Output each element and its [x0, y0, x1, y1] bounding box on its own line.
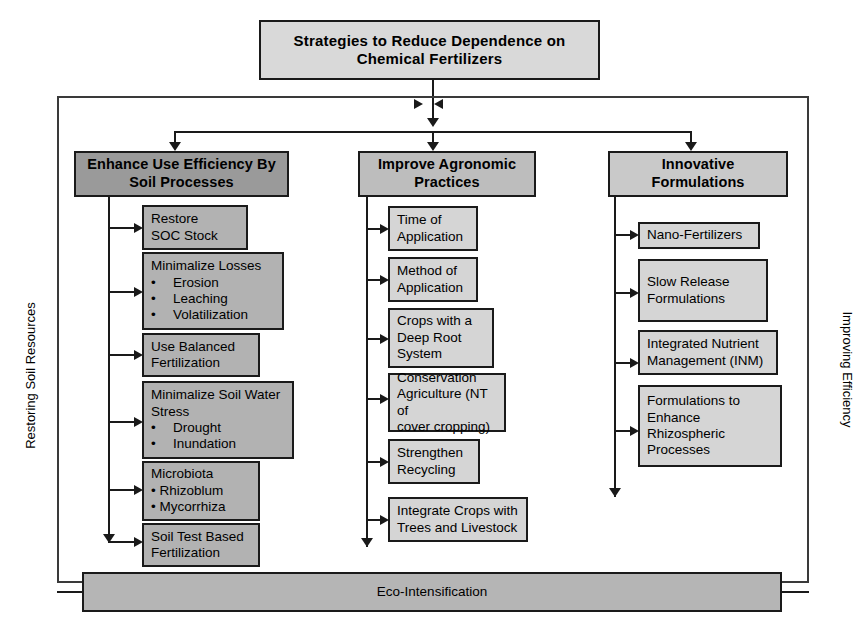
- drop-col2-arrow-icon: [427, 142, 439, 151]
- right-frame-to-footer: [780, 591, 809, 593]
- column-header-label: Enhance Use Efficiency By Soil Processes: [83, 156, 280, 191]
- frame-right-arrow-icon: [434, 99, 443, 109]
- diagram-canvas: Strategies to Reduce Dependence on Chemi…: [0, 0, 863, 643]
- item-soil-test-based-fertilization[interactable]: Soil Test Based Fertilization: [142, 523, 260, 567]
- drop-col3-arrow-icon: [685, 142, 697, 151]
- item-microbiota[interactable]: Microbiota • Rhizoblum • Mycorrhiza: [142, 461, 260, 521]
- column-header-enhance-use-efficiency[interactable]: Enhance Use Efficiency By Soil Processes: [74, 151, 289, 197]
- drop-col1-arrow-icon: [169, 142, 181, 151]
- item-integrated-nutrient-management[interactable]: Integrated Nutrient Management (INM): [638, 330, 778, 375]
- col2-spine: [366, 197, 368, 547]
- item-minimalize-soil-water-stress[interactable]: Minimalize Soil Water Stress • Drought •…: [142, 381, 294, 459]
- item-time-of-application[interactable]: Time of Application: [388, 206, 478, 251]
- item-integrate-crops-trees-livestock[interactable]: Integrate Crops with Trees and Livestock: [388, 497, 528, 542]
- column-header-improve-agronomic-practices[interactable]: Improve Agronomic Practices: [358, 151, 536, 197]
- left-frame-to-footer: [57, 591, 84, 593]
- item-restore-soc-stock[interactable]: Restore SOC Stock: [142, 205, 248, 250]
- frame-left-arrow-icon: [414, 99, 423, 109]
- item-minimalize-losses[interactable]: Minimalize Losses • Erosion • Leaching •…: [142, 252, 284, 330]
- col1-spine: [108, 197, 110, 543]
- item-method-of-application[interactable]: Method of Application: [388, 257, 478, 302]
- item-strengthen-recycling[interactable]: Strengthen Recycling: [388, 439, 480, 484]
- col3-spine: [614, 197, 616, 497]
- col2-spine-arrow-icon: [361, 538, 373, 547]
- item-conservation-agriculture[interactable]: Conservation Agriculture (NT of cover cr…: [388, 373, 506, 432]
- eco-intensification-label: Eco-Intensification: [373, 584, 491, 600]
- eco-intensification-bar[interactable]: Eco-Intensification: [82, 572, 782, 612]
- item-nano-fertilizers[interactable]: Nano-Fertilizers: [638, 222, 760, 249]
- item-crops-deep-root-system[interactable]: Crops with a Deep Root System: [388, 308, 494, 368]
- fanout-stem-arrow-icon: [427, 118, 439, 127]
- title-box: Strategies to Reduce Dependence on Chemi…: [259, 20, 600, 80]
- col3-spine-arrow-icon: [609, 488, 621, 497]
- column-header-innovative-formulations[interactable]: Innovative Formulations: [608, 151, 788, 197]
- right-axis-label: Improving Efficiency: [840, 280, 855, 460]
- left-axis-label: Restoring Soil Resources: [23, 286, 38, 466]
- item-formulations-enhance-rhizospheric[interactable]: Formulations to Enhance Rhizospheric Pro…: [638, 385, 782, 467]
- item-use-balanced-fertilization[interactable]: Use Balanced Fertilization: [142, 333, 260, 377]
- column-header-label: Improve Agronomic Practices: [374, 156, 520, 191]
- item-slow-release-formulations[interactable]: Slow Release Formulations: [638, 259, 768, 322]
- column-header-label: Innovative Formulations: [610, 156, 786, 191]
- title-text: Strategies to Reduce Dependence on Chemi…: [290, 32, 570, 69]
